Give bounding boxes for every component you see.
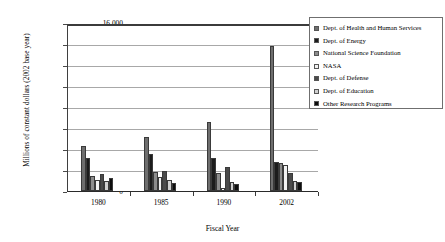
x-axis-tick-label: 1980 [68,198,128,207]
legend-swatch-icon [314,64,319,69]
x-axis-tick-mark [193,192,194,196]
legend-item-label: Dept. of Education [323,88,374,95]
bar [234,184,239,191]
legend-item[interactable]: National Science Foundation [314,47,439,60]
y-axis-tick-mark [63,192,67,193]
legend-item-label: Other Research Programs [323,101,392,108]
legend-swatch-icon [314,26,319,31]
y-axis-title: Millions of constant dollars (2002 base … [23,15,31,185]
x-axis-tick-mark [130,192,131,196]
bar [297,182,302,191]
legend-item[interactable]: NASA [314,60,439,73]
legend-item[interactable]: Other Research Programs [314,98,439,111]
legend-swatch-icon [314,76,319,81]
bar [109,178,114,191]
legend-item-label: Dept. of Health and Human Services [323,25,421,32]
legend-item-label: Dept. of Defense [323,75,369,82]
legend-swatch-icon [314,89,319,94]
bar-group [207,23,239,191]
x-axis-tick-label: 1985 [131,198,191,207]
bar-group [81,23,113,191]
legend-swatch-icon [314,51,319,56]
chart-container: Millions of constant dollars (2002 base … [0,0,445,242]
legend-item-label: Dept. of Energy [323,38,366,45]
legend-swatch-icon [314,38,319,43]
legend-item-label: National Science Foundation [323,50,401,57]
bar-group [270,23,302,191]
x-axis-tick-mark [255,192,256,196]
chart-legend: Dept. of Health and Human ServicesDept. … [309,17,443,109]
legend-item[interactable]: Dept. of Education [314,85,439,98]
legend-item[interactable]: Dept. of Health and Human Services [314,22,439,35]
legend-item[interactable]: Dept. of Energy [314,35,439,48]
bar-group [144,23,176,191]
x-axis-tick-label: 2002 [257,198,317,207]
x-axis-title: Fiscal Year [0,224,445,233]
plot-area [67,24,318,192]
x-axis-tick-label: 1990 [194,198,254,207]
x-axis-tick-mark [318,192,319,196]
bar [172,183,177,191]
legend-item[interactable]: Dept. of Defense [314,72,439,85]
legend-item-label: NASA [323,63,341,70]
legend-swatch-icon [314,101,319,106]
